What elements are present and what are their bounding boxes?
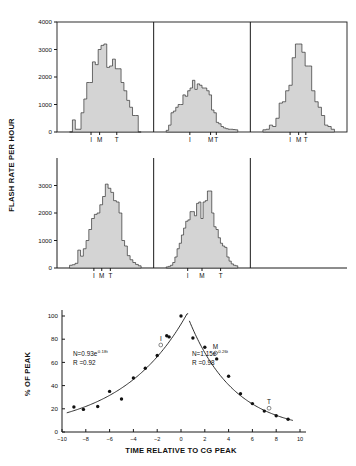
histogram-storm-5-phase-label-m: M — [199, 272, 204, 279]
histogram-storm-5-bars — [166, 191, 238, 268]
histogram-storm-4-bars — [70, 184, 142, 268]
data-point — [203, 346, 206, 349]
data-point — [82, 408, 85, 411]
histogram-storm-4-phase-label-m: M — [99, 272, 104, 279]
data-point — [96, 405, 99, 408]
scatter-y-ticklabel: 60 — [51, 359, 58, 366]
data-point — [156, 354, 159, 357]
y-ticklabel-row1: 0 — [49, 128, 53, 135]
y-ticklabel-row2: 0 — [49, 264, 53, 271]
y-ticklabel-row2: 2000 — [38, 209, 52, 216]
scatter-y-ticklabel: 0 — [55, 428, 59, 435]
phase-marker-i — [159, 343, 163, 347]
data-point — [191, 336, 194, 339]
fit-right-exponent: -0.26t — [217, 349, 229, 354]
scatter-y-ticklabel: 20 — [51, 405, 58, 412]
histogram-storm-1-phase-label-i: I — [90, 136, 92, 143]
phase-marker-label-i: I — [160, 335, 162, 342]
scatter-x-ticklabel: −2 — [154, 436, 160, 442]
data-point — [275, 414, 278, 417]
fit-left-equation: N=0.93e — [73, 350, 98, 357]
histogram-storm-2-phase-label-m: M — [208, 136, 213, 143]
histogram-storm-4-phase-label-i: I — [93, 272, 95, 279]
figure-canvas: 010002000300040000100020003000FLASH RATE… — [0, 0, 356, 466]
data-point — [251, 402, 254, 405]
histogram-storm-5-phase-label-t: T — [219, 272, 223, 279]
phase-marker-label-t: T — [267, 398, 271, 405]
scatter-y-ticklabel: 100 — [48, 312, 59, 319]
histogram-storm-2-bars — [166, 80, 238, 132]
scatter-y-ticklabel: 80 — [51, 335, 58, 342]
histogram-y-axis-title: FLASH RATE PER HOUR — [7, 118, 16, 212]
data-point — [215, 357, 218, 360]
scatter-x-ticklabel: −6 — [106, 436, 112, 442]
fit-left-r-value: R =0.92 — [73, 359, 96, 366]
y-ticklabel-row1: 3000 — [38, 46, 52, 53]
scatter-x-ticklabel: 10 — [297, 436, 303, 442]
histogram-storm-3-bars — [263, 44, 335, 132]
fit-right-equation: N=1.15e — [192, 350, 217, 357]
histogram-storm-1-phase-label-t: T — [115, 136, 119, 143]
fit-curve-right — [189, 321, 293, 421]
histogram-storm-3-phase-label-i: I — [289, 136, 291, 143]
histogram-storm-5-phase-label-i: I — [187, 272, 189, 279]
scatter-x-ticklabel: 8 — [275, 436, 278, 442]
lightning-flash-rate-figure: 010002000300040000100020003000FLASH RATE… — [0, 0, 356, 466]
histogram-storm-4-phase-label-t: T — [108, 272, 112, 279]
histogram-storm-2-phase-label-i: I — [189, 136, 191, 143]
y-ticklabel-row1: 2000 — [38, 73, 52, 80]
histogram-storm-3-phase-label-m: M — [296, 136, 301, 143]
data-point — [227, 375, 230, 378]
y-ticklabel-row1: 1000 — [38, 101, 52, 108]
y-ticklabel-row2: 3000 — [38, 182, 52, 189]
scatter-x-ticklabel: 6 — [251, 436, 254, 442]
histogram-storm-1-phase-label-m: M — [97, 136, 102, 143]
histogram-storm-2-phase-label-t: T — [214, 136, 218, 143]
data-point — [120, 397, 123, 400]
scatter-x-ticklabel: −10 — [57, 436, 67, 442]
scatter-y-axis-title: % OF PEAK — [23, 351, 32, 396]
fit-left-exponent: 0.18t — [98, 349, 109, 354]
scatter-x-ticklabel: 2 — [203, 436, 206, 442]
data-point — [108, 390, 111, 393]
fit-right-r-value: R =0.98 — [192, 359, 215, 366]
y-ticklabel-row2: 1000 — [38, 237, 52, 244]
histogram-storm-1-bars — [70, 44, 142, 132]
histogram-storm-3-phase-label-t: T — [304, 136, 308, 143]
data-point — [132, 376, 135, 379]
data-point — [263, 409, 266, 412]
scatter-x-axis-title: TIME RELATIVE TO CG PEAK — [125, 446, 237, 455]
data-point — [72, 405, 75, 408]
data-point — [144, 367, 147, 370]
scatter-x-ticklabel: 4 — [227, 436, 230, 442]
scatter-x-ticklabel: −8 — [83, 436, 89, 442]
phase-marker-t — [267, 406, 271, 410]
scatter-x-ticklabel: 0 — [179, 436, 182, 442]
y-ticklabel-row1: 4000 — [38, 18, 52, 25]
data-point — [167, 335, 170, 338]
data-point — [286, 418, 289, 421]
scatter-y-ticklabel: 40 — [51, 382, 58, 389]
scatter-x-ticklabel: −4 — [130, 436, 136, 442]
data-point — [239, 392, 242, 395]
data-point — [179, 314, 182, 317]
